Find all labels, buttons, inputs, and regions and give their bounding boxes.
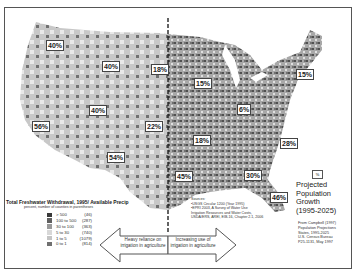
legend-swatch bbox=[47, 230, 52, 235]
legend: > 500(46) 100 to 500(287) 30 to 100(363)… bbox=[47, 212, 92, 247]
growth-label: 54% bbox=[107, 152, 125, 163]
growth-label: 6% bbox=[237, 104, 251, 115]
growth-label: 18% bbox=[151, 64, 169, 75]
growth-label: 56% bbox=[32, 121, 50, 132]
legend-row: 0 to 1(814) bbox=[47, 241, 92, 247]
growth-label: 40% bbox=[89, 105, 107, 116]
legend-swatch bbox=[47, 242, 52, 247]
legend-swatch bbox=[47, 224, 52, 229]
arrow-left-text: Heavy reliance on irrigation in agricult… bbox=[120, 237, 166, 249]
legend-swatch bbox=[47, 236, 52, 241]
growth-label: 18% bbox=[193, 135, 211, 146]
western-us-region bbox=[20, 22, 168, 210]
sources-note: Sources: •USGS Circular 1200 (Year 1995)… bbox=[191, 197, 263, 220]
percent-symbol-key: % bbox=[312, 170, 323, 179]
population-source: From Campbell (1997) Population Projecti… bbox=[298, 221, 336, 245]
legend-swatch bbox=[47, 218, 52, 223]
growth-label: 46% bbox=[270, 192, 288, 203]
population-growth-title: Projected Population Growth (1995-2025) bbox=[296, 181, 336, 215]
legend-subtitle: percent, number of counties in parenthes… bbox=[24, 205, 93, 209]
arrow-right-text: Increasing use of irrigation in agricult… bbox=[170, 237, 216, 249]
growth-label: 15% bbox=[296, 69, 314, 80]
growth-label: 30% bbox=[244, 170, 262, 181]
growth-label: 45% bbox=[175, 171, 193, 182]
growth-label: 40% bbox=[46, 40, 64, 51]
growth-label: 28% bbox=[280, 138, 298, 149]
legend-swatch bbox=[47, 213, 52, 218]
growth-label: 22% bbox=[145, 121, 163, 132]
growth-label: 40% bbox=[102, 61, 120, 72]
growth-label: 15% bbox=[194, 78, 212, 89]
